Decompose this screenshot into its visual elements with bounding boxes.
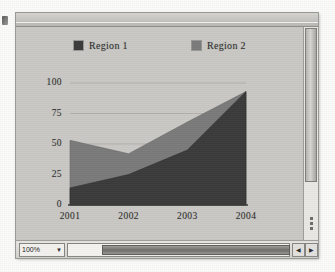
vertical-scrollbar-thumb[interactable] — [305, 28, 317, 182]
vertical-scroll-nav-dots[interactable] — [307, 215, 315, 229]
ruler-bar — [16, 13, 318, 27]
y-axis-tick: 0 — [36, 199, 62, 209]
presentation-window: Region 1 Region 2 1007550250 20012002200… — [16, 13, 318, 258]
zoom-level-value: 100% — [22, 246, 40, 253]
ruler-tick-line — [16, 22, 318, 23]
vertical-scrollbar[interactable] — [303, 27, 318, 241]
scroll-right-button[interactable]: ▶ — [305, 243, 318, 257]
y-axis-tick: 50 — [36, 138, 62, 148]
y-axis-tick: 25 — [36, 169, 62, 179]
x-axis-tick: 2004 — [226, 211, 266, 221]
scroll-dot — [310, 217, 313, 220]
x-axis-tick: 2002 — [109, 211, 149, 221]
scroll-left-button[interactable]: ◀ — [292, 243, 305, 257]
y-axis-tick: 75 — [36, 108, 62, 118]
x-axis-tick: 2003 — [167, 211, 207, 221]
chart-plot-area[interactable]: 1007550250 2001200220032004 — [16, 27, 304, 241]
slide-canvas[interactable]: Region 1 Region 2 1007550250 20012002200… — [16, 27, 304, 241]
page-edge-artifact — [2, 16, 8, 25]
scroll-dot — [310, 222, 313, 225]
status-bar: 100% ▼ ◀ ▶ — [16, 240, 318, 258]
zoom-level-dropdown[interactable]: 100% ▼ — [19, 243, 65, 257]
horizontal-scrollbar-thumb[interactable] — [102, 245, 290, 255]
x-axis-tick: 2001 — [50, 211, 90, 221]
scroll-dot — [310, 227, 313, 230]
horizontal-scrollbar[interactable] — [67, 243, 290, 257]
y-axis-tick: 100 — [36, 77, 62, 87]
chevron-down-icon: ▼ — [56, 247, 62, 253]
